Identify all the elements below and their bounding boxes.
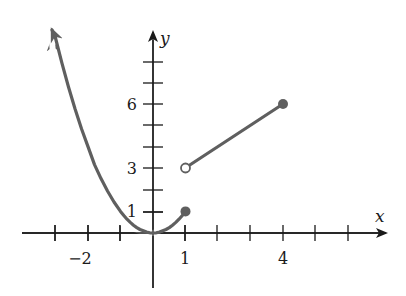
pieces [0, 0, 406, 296]
open-endpoint-1-3 [181, 164, 190, 173]
line-piece [189, 104, 283, 166]
closed-endpoint-1-1 [181, 206, 191, 216]
closed-endpoint-4-6 [278, 99, 288, 109]
parabola-piece [52, 30, 186, 233]
